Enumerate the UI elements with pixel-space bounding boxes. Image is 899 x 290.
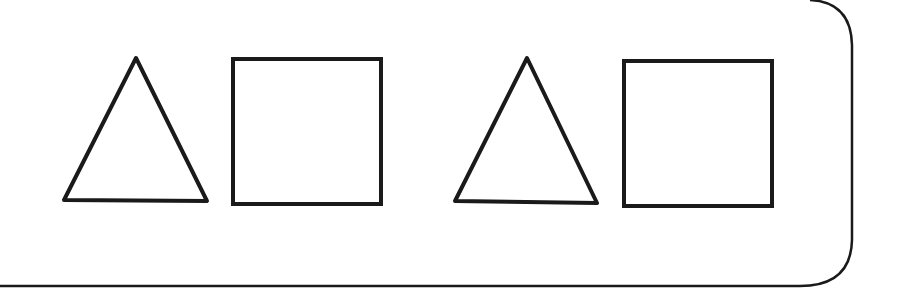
frame-border	[0, 0, 852, 286]
triangle-shape-2	[455, 58, 597, 203]
diagram-canvas	[0, 0, 899, 290]
square-shape-2	[624, 61, 772, 206]
triangle-shape-1	[64, 58, 207, 201]
square-shape-1	[233, 59, 381, 204]
